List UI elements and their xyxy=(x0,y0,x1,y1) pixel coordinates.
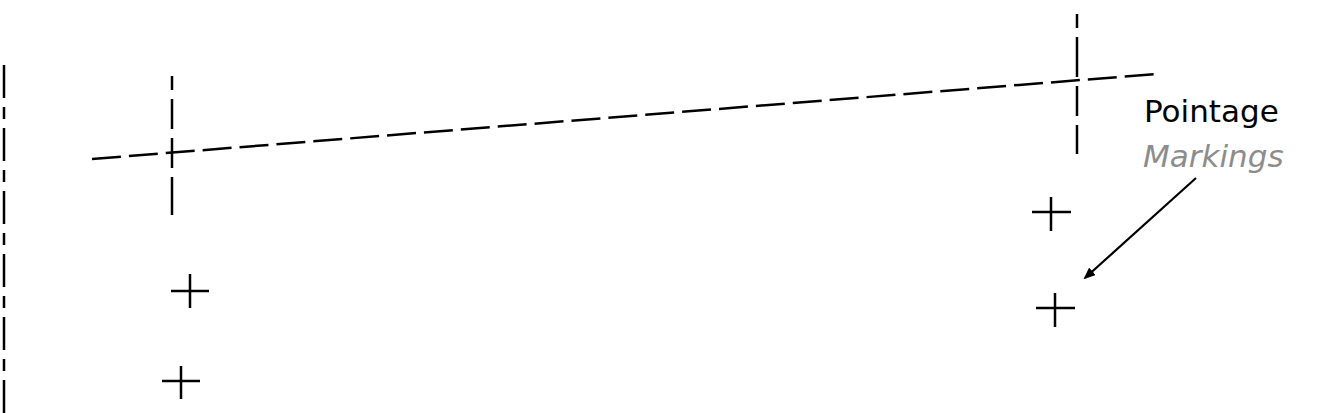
leader-arrow-icon xyxy=(1085,178,1196,278)
pointage-mark-left-lower xyxy=(162,366,200,399)
pointage-mark-left-upper xyxy=(171,274,209,308)
pointage-mark-right-upper xyxy=(1032,197,1071,231)
pointage-diagram xyxy=(0,0,1344,413)
slanted-centerline xyxy=(92,74,1156,159)
label-pointage: Pointage xyxy=(1144,96,1279,127)
pointage-mark-right-lower xyxy=(1036,293,1075,327)
label-markings: Markings xyxy=(1143,141,1284,172)
